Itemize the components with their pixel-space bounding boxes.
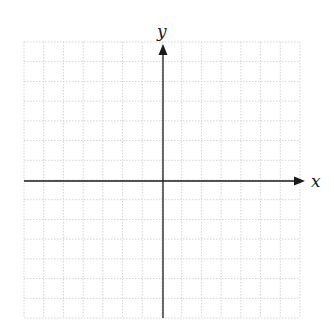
y-axis-arrow-icon — [159, 44, 168, 55]
axes — [24, 44, 305, 318]
x-axis-label: x — [311, 171, 321, 191]
y-axis-label: y — [156, 21, 167, 41]
grid — [24, 42, 300, 318]
coordinate-plane: x y — [0, 0, 334, 325]
